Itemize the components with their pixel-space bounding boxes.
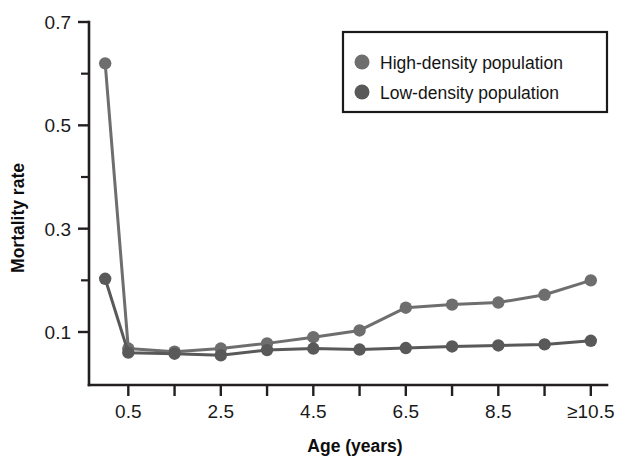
data-point-low-density bbox=[99, 273, 111, 285]
data-point-low-density bbox=[168, 348, 180, 360]
x-tick-label: 2.5 bbox=[208, 401, 234, 422]
data-point-high-density bbox=[400, 302, 412, 314]
data-point-low-density bbox=[215, 349, 227, 361]
legend-label-high-density: High-density population bbox=[380, 53, 563, 73]
data-point-low-density bbox=[538, 338, 550, 350]
data-point-low-density bbox=[446, 340, 458, 352]
legend: High-density population Low-density popu… bbox=[343, 32, 607, 112]
data-point-high-density bbox=[307, 331, 319, 343]
x-axis-title: Age (years) bbox=[307, 436, 402, 456]
data-point-high-density bbox=[353, 324, 365, 336]
y-axis-title: Mortality rate bbox=[8, 163, 28, 273]
y-tick-label: 0.1 bbox=[45, 322, 71, 343]
data-point-low-density bbox=[492, 339, 504, 351]
y-tick-label: 0.7 bbox=[45, 12, 71, 33]
legend-marker-low-density bbox=[355, 85, 370, 100]
x-tick-label: 8.5 bbox=[485, 401, 511, 422]
data-point-low-density bbox=[353, 343, 365, 355]
data-point-low-density bbox=[400, 342, 412, 354]
legend-label-low-density: Low-density population bbox=[380, 83, 559, 103]
mortality-rate-line-chart: 0.10.30.50.7 0.52.54.56.58.5≥10.5 Mortal… bbox=[0, 0, 621, 461]
data-point-high-density bbox=[538, 289, 550, 301]
data-point-low-density bbox=[122, 346, 134, 358]
y-tick-label: 0.3 bbox=[45, 219, 71, 240]
y-tick-label: 0.5 bbox=[45, 115, 71, 136]
figure-container: 0.10.30.50.7 0.52.54.56.58.5≥10.5 Mortal… bbox=[0, 0, 621, 461]
data-point-high-density bbox=[492, 296, 504, 308]
data-point-low-density bbox=[585, 335, 597, 347]
data-point-high-density bbox=[446, 298, 458, 310]
x-tick-label: 6.5 bbox=[393, 401, 419, 422]
data-point-low-density bbox=[261, 344, 273, 356]
x-tick-label: 0.5 bbox=[115, 401, 141, 422]
x-tick-label: 4.5 bbox=[300, 401, 326, 422]
x-tick-label: ≥10.5 bbox=[567, 401, 614, 422]
legend-marker-high-density bbox=[355, 55, 370, 70]
data-point-low-density bbox=[307, 342, 319, 354]
data-point-high-density bbox=[99, 57, 111, 69]
data-point-high-density bbox=[585, 274, 597, 286]
